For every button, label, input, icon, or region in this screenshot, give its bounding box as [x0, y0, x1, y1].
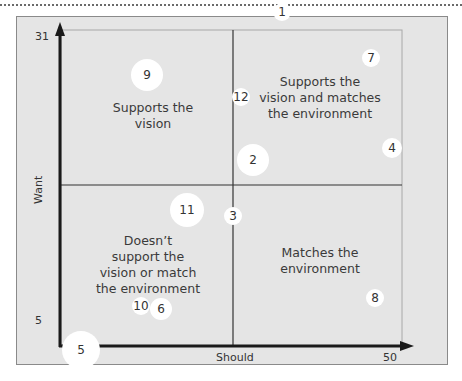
svg-text:8: 8 [371, 291, 379, 305]
svg-text:7: 7 [367, 51, 375, 65]
quadrant-line: vision [135, 116, 171, 131]
bubble-6: 6 [150, 298, 172, 320]
quadrant-bubble-chart: 31 5 21 50 Should Want Supports the visi… [0, 0, 462, 381]
quadrant-label-bottom-right: Matches the environment [280, 245, 360, 276]
bubbles: 1 2 3 4 5 6 7 8 9 10 11 12 [62, 3, 402, 369]
x-axis-arrow-icon [400, 341, 414, 351]
quadrant-label-top-right: Supports the vision and matches the envi… [259, 74, 381, 121]
bubble-4: 4 [382, 138, 402, 158]
quadrant-line: vision and matches [259, 90, 381, 105]
bubble-12: 12 [232, 88, 250, 106]
svg-text:2: 2 [249, 153, 257, 167]
quadrant-line: vision or match [100, 265, 197, 280]
bubble-9: 9 [131, 59, 163, 91]
y-axis-title: Want [32, 175, 45, 204]
quadrant-line: support the [112, 249, 185, 264]
x-axis-title: Should [216, 351, 254, 364]
quadrant-line: the environment [96, 281, 200, 296]
bubble-3: 3 [224, 207, 242, 225]
x-max-label: 50 [383, 351, 397, 364]
y-min-label: 5 [35, 314, 42, 327]
y-max-label: 31 [35, 30, 49, 43]
bubble-10: 10 [132, 297, 150, 315]
svg-text:10: 10 [133, 299, 148, 313]
svg-text:12: 12 [233, 90, 248, 104]
svg-text:1: 1 [278, 5, 286, 19]
quadrant-line: Supports the [113, 100, 194, 115]
svg-text:9: 9 [143, 68, 151, 82]
svg-text:6: 6 [157, 302, 165, 316]
quadrant-label-bottom-left: Doesn’t support the vision or match the … [96, 233, 200, 296]
quadrant-line: the environment [268, 106, 372, 121]
quadrant-line: Supports the [280, 74, 361, 89]
bubble-7: 7 [362, 49, 380, 67]
svg-text:11: 11 [179, 203, 194, 217]
bubble-8: 8 [366, 289, 384, 307]
bubble-1: 1 [273, 3, 291, 21]
quadrant-label-top-left: Supports the vision [113, 100, 194, 131]
bubble-2: 2 [237, 144, 269, 176]
svg-text:3: 3 [229, 209, 237, 223]
svg-text:4: 4 [388, 141, 396, 155]
y-axis-arrow-icon [55, 22, 65, 36]
quadrant-line: Doesn’t [124, 233, 172, 248]
bubble-11: 11 [170, 193, 204, 227]
bubble-5: 5 [62, 331, 100, 369]
quadrant-line: environment [280, 261, 360, 276]
quadrant-line: Matches the [282, 245, 359, 260]
svg-text:5: 5 [77, 343, 85, 357]
